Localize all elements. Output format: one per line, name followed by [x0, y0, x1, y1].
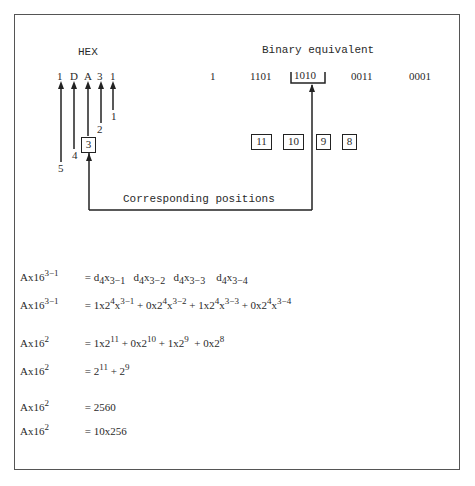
equation-4: Ax162 = 211 + 29	[20, 362, 130, 377]
equation-5: Ax162 = 2560	[20, 398, 116, 413]
equation-3: Ax162 = 1x211 + 0x210 + 1x29 + 0x28	[20, 334, 224, 349]
equation-1: Ax163−1 = d4x3−1 d4x3−2 d4x3−3 d4x3−4	[20, 268, 248, 286]
equation-6: Ax162 = 10x256	[20, 422, 127, 437]
arrow-lines	[0, 0, 475, 486]
equation-2: Ax163−1 = 1x24x3−1 + 0x24x3−2 + 1x24x3−3…	[20, 296, 291, 311]
